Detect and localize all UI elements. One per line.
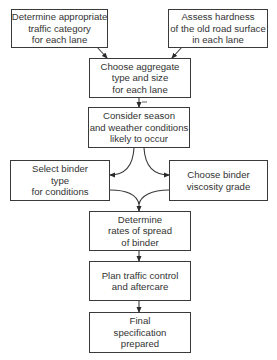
node-text-line: Choose binder: [187, 169, 249, 180]
arrow-season-to-viscosity: [144, 148, 169, 175]
node-text-line: Consider season: [103, 110, 175, 121]
node-text-line: and weather conditions: [90, 122, 189, 133]
node-text-line: likely to occur: [110, 133, 168, 144]
node-text-line: Final: [130, 315, 151, 326]
node-assess-hardness: Assess hardness of the old road surface …: [168, 9, 268, 48]
node-text-line: Determine: [118, 214, 162, 225]
node-text-line: Assess hardness: [181, 11, 254, 22]
node-text-line: Choose aggregate: [101, 61, 180, 72]
node-text-line: Determine appropriate: [12, 11, 107, 22]
node-text-line: Select binder: [32, 163, 88, 174]
node-select-binder-type: Select binder type for conditions: [10, 160, 110, 201]
node-text-line: for conditions: [31, 186, 88, 197]
arrow-hardness-to-aggregate: [172, 47, 182, 58]
node-text-line: rates of spread: [108, 225, 172, 236]
node-final-specification: Final specification prepared: [89, 312, 191, 353]
curve-binder-type-to-merge: [110, 190, 139, 204]
node-text-line: for each lane: [32, 34, 87, 45]
node-determine-traffic-category: Determine appropriate traffic category f…: [11, 9, 108, 48]
node-text-line: and aftercare: [112, 281, 169, 292]
node-text-line: prepared: [121, 338, 159, 349]
node-text-line: type: [51, 175, 69, 186]
node-choose-aggregate: Choose aggregate type and size for each …: [89, 58, 191, 98]
arrow-traffic-to-aggregate: [97, 47, 107, 58]
node-text-line: Plan traffic control: [102, 270, 179, 281]
node-choose-viscosity-grade: Choose binder viscosity grade: [169, 160, 268, 201]
node-plan-traffic-control: Plan traffic control and aftercare: [89, 261, 191, 301]
node-text-line: type and size: [112, 72, 169, 83]
node-text-line: traffic category: [28, 23, 91, 34]
node-text-line: for each lane: [112, 84, 167, 95]
cropped-caption: ' ` ' ' ' ' ' ` ' ' ': [0, 355, 277, 360]
node-text-line: of the old road surface: [170, 23, 265, 34]
node-text-line: specification: [114, 327, 167, 338]
node-text-line: viscosity grade: [187, 181, 250, 192]
arrow-season-to-binder-type: [110, 148, 134, 175]
curve-viscosity-to-merge: [139, 190, 169, 204]
node-text-line: in each lane: [192, 34, 244, 45]
caption-fragment-text: ' ` ' ' ' ' ' ` ' ' ': [0, 355, 277, 360]
node-consider-season: Consider season and weather conditions l…: [88, 107, 190, 148]
node-determine-spread-rates: Determine rates of spread of binder: [89, 211, 191, 251]
node-text-line: of binder: [121, 237, 158, 248]
